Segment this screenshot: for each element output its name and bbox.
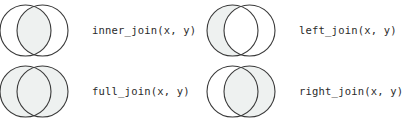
join-panel-inner-join: inner_join(x, y) <box>0 0 207 61</box>
join-panel-left-join: left_join(x, y) <box>207 0 414 61</box>
join-label-full-join: full_join(x, y) <box>92 86 190 97</box>
join-label-inner-join: inner_join(x, y) <box>92 25 196 36</box>
join-panel-right-join: right_join(x, y) <box>207 61 414 122</box>
join-label-right-join: right_join(x, y) <box>299 86 403 97</box>
join-label-left-join: left_join(x, y) <box>299 25 397 36</box>
venn-diagram-inner-join <box>0 0 88 61</box>
venn-diagram-left-join <box>207 0 295 61</box>
join-diagram-grid: inner_join(x, y) left_join(x, y) full_jo… <box>0 0 414 122</box>
join-panel-full-join: full_join(x, y) <box>0 61 207 122</box>
venn-diagram-full-join <box>0 61 88 122</box>
venn-diagram-right-join <box>207 61 295 122</box>
